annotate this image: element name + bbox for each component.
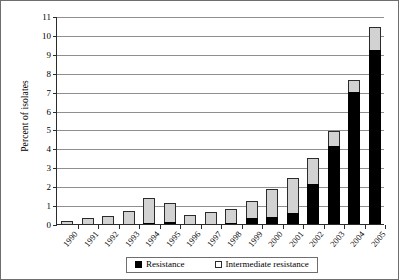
bar-segment-intermediate-resistance: [328, 131, 340, 146]
bar-segment-resistance: [369, 50, 381, 224]
bar-segment-intermediate-resistance: [287, 178, 299, 213]
x-axis-tick-label: 1995: [164, 229, 183, 249]
bar-segment-resistance: [328, 146, 340, 224]
y-axis-tick-label: 6: [47, 107, 52, 116]
bar-segment-resistance: [348, 92, 360, 224]
x-axis-tick-label: 1992: [102, 229, 121, 249]
bar-segment-resistance: [307, 184, 319, 224]
y-axis-tick-label: 2: [47, 183, 52, 192]
x-axis-tick-label: 2003: [328, 229, 347, 249]
x-axis-tick: [385, 225, 386, 229]
y-axis-tick: [53, 187, 57, 188]
legend-label-resistance: Resistance: [146, 260, 185, 269]
bar-1996: [184, 215, 196, 224]
bar-segment-resistance: [143, 223, 155, 224]
y-axis-tick-label: 4: [47, 145, 52, 154]
x-axis-tick: [119, 225, 120, 229]
legend-item-intermediate-resistance: Intermediate resistance: [215, 260, 309, 269]
gridline: [57, 55, 384, 56]
bar-1995: [164, 203, 176, 224]
x-axis-tick-label: 1998: [225, 229, 244, 249]
gridline: [57, 17, 384, 18]
x-axis-tick: [262, 225, 263, 229]
bar-segment-intermediate-resistance: [246, 201, 258, 218]
y-axis-tick: [53, 55, 57, 56]
legend-swatch-resistance-icon: [135, 261, 142, 268]
y-axis-tick: [53, 93, 57, 94]
legend-swatch-intermediate-resistance-icon: [215, 261, 222, 268]
bar-segment-intermediate-resistance: [184, 215, 196, 224]
y-axis-tick: [53, 74, 57, 75]
bar-segment-intermediate-resistance: [102, 216, 114, 224]
bar-segment-resistance: [287, 213, 299, 224]
gridline: [57, 93, 384, 94]
plot-area: 01234567891011 1990199119921993199419951…: [56, 17, 384, 225]
x-axis-tick: [201, 225, 202, 229]
y-axis-tick-label: 7: [47, 88, 52, 97]
x-axis-tick-label: 1999: [246, 229, 265, 249]
bar-1998: [225, 209, 237, 224]
bar-segment-intermediate-resistance: [225, 209, 237, 223]
x-axis-tick: [283, 225, 284, 229]
x-axis-tick-label: 1994: [143, 229, 162, 249]
bar-segment-intermediate-resistance: [61, 221, 73, 224]
x-axis-tick: [242, 225, 243, 229]
y-axis-tick: [53, 225, 57, 226]
chart-legend: Resistance Intermediate resistance: [126, 257, 318, 273]
bar-1993: [123, 211, 135, 224]
bar-1999: [246, 201, 258, 224]
figure-frame: Percent of isolates 01234567891011 19901…: [0, 0, 399, 280]
x-axis-tick-label: 1990: [61, 229, 80, 249]
y-axis-tick: [53, 130, 57, 131]
gridline: [57, 74, 384, 75]
y-axis-tick-label: 9: [47, 50, 52, 59]
y-axis-tick: [53, 112, 57, 113]
bar-segment-resistance: [266, 217, 278, 224]
y-axis-tick-label: 0: [47, 221, 52, 230]
y-axis-tick: [53, 168, 57, 169]
gridline: [57, 36, 384, 37]
x-axis-tick-label: 2004: [348, 229, 367, 249]
x-axis-tick-label: 2002: [307, 229, 326, 249]
x-axis-tick-label: 1993: [123, 229, 142, 249]
bar-segment-intermediate-resistance: [348, 80, 360, 91]
bar-1992: [102, 216, 114, 224]
bar-1994: [143, 198, 155, 224]
bar-segment-resistance: [225, 223, 237, 224]
y-axis-tick: [53, 17, 57, 18]
bar-segment-intermediate-resistance: [143, 198, 155, 222]
bar-2000: [266, 189, 278, 224]
bar-segment-intermediate-resistance: [205, 212, 217, 224]
y-axis-tick-label: 10: [42, 31, 51, 40]
x-axis-tick: [98, 225, 99, 229]
x-axis-tick-label: 2001: [287, 229, 306, 249]
x-axis-tick-label: 1996: [184, 229, 203, 249]
y-axis-tick: [53, 36, 57, 37]
bar-1997: [205, 212, 217, 224]
bar-2002: [307, 158, 319, 224]
x-axis-tick: [180, 225, 181, 229]
x-axis-tick: [78, 225, 79, 229]
y-axis-title: Percent of isolates: [20, 46, 30, 186]
bar-segment-resistance: [164, 222, 176, 224]
bar-1991: [82, 218, 94, 224]
y-axis-tick-label: 8: [47, 69, 52, 78]
gridline: [57, 112, 384, 113]
x-axis-tick: [344, 225, 345, 229]
bar-segment-intermediate-resistance: [266, 189, 278, 217]
bar-segment-intermediate-resistance: [82, 218, 94, 224]
y-axis-tick-label: 11: [42, 13, 51, 22]
bar-segment-resistance: [246, 218, 258, 224]
bar-segment-intermediate-resistance: [307, 158, 319, 184]
x-axis-tick: [160, 225, 161, 229]
x-axis-tick: [139, 225, 140, 229]
y-axis-tick: [53, 206, 57, 207]
y-axis-tick: [53, 149, 57, 150]
y-axis-tick-label: 3: [47, 164, 52, 173]
x-axis-tick-label: 1991: [82, 229, 101, 249]
y-axis-tick-label: 5: [47, 126, 52, 135]
bar-segment-intermediate-resistance: [369, 27, 381, 50]
bar-2003: [328, 131, 340, 224]
bar-segment-intermediate-resistance: [123, 211, 135, 224]
legend-label-intermediate-resistance: Intermediate resistance: [226, 260, 309, 269]
